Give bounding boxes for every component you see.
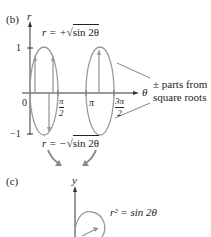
x-tick-pi-over-2: π 2 (59, 97, 64, 118)
diagram-graphics (0, 0, 211, 237)
origin-label: 0 (22, 98, 27, 108)
annotation-line-2: square roots (153, 92, 206, 103)
lower-equation-lhs: r = − (42, 137, 67, 149)
panel-c-y-arrow (73, 186, 77, 192)
upper-equation-radicand: sin 2θ (73, 24, 99, 38)
y-tick-neg1: −1 (10, 129, 21, 139)
x-tick-pi: π (89, 98, 94, 108)
sqrt-sign-icon: √ (67, 137, 73, 149)
theta-axis-label: θ (142, 87, 147, 98)
upper-equation-lhs: r = + (42, 26, 67, 38)
transition-arrows (48, 150, 96, 164)
x-tick-3pi-over-2-num: 3π (115, 97, 124, 106)
x-tick-3pi-over-2: 3π 2 (115, 97, 124, 118)
y-tick-1: 1 (16, 43, 21, 53)
lemniscate-equation: r² = sin 2θ (110, 207, 157, 218)
upper-equation: r = +√sin 2θ (42, 27, 99, 38)
panel-c-label: (c) (6, 176, 18, 187)
lemniscate-loop-curve (75, 212, 105, 237)
lower-equation-radicand: sin 2θ (73, 135, 99, 149)
x-tick-pi-over-2-num: π (59, 97, 64, 106)
annotation-line-1: ± parts from (153, 79, 207, 90)
y-axis-label: y (72, 175, 77, 186)
r-axis-label: r (27, 11, 31, 22)
second-loop-curve (86, 47, 114, 135)
panel-b-label: (b) (6, 14, 19, 25)
sqrt-sign-icon: √ (67, 26, 73, 38)
lower-equation: r = −√sin 2θ (42, 138, 99, 149)
x-tick-pi-over-2-den: 2 (59, 109, 64, 118)
x-tick-3pi-over-2-den: 2 (117, 109, 122, 118)
